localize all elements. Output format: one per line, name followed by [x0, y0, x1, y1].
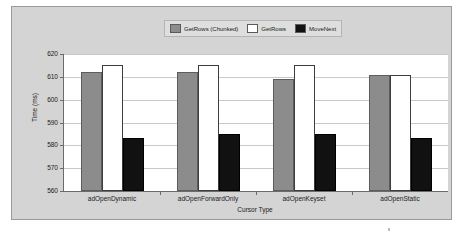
x-axis-tick: [256, 191, 257, 195]
bar-1-1: [198, 65, 219, 191]
legend-swatch-icon-movenext: [295, 24, 306, 33]
bar-2-2: [315, 134, 336, 191]
bar-1-2: [294, 65, 315, 191]
y-axis-tick-label: 620: [47, 51, 58, 58]
legend-entry-movenext: MoveNext: [295, 24, 336, 33]
bar-2-3: [411, 138, 432, 191]
y-axis-tick: [60, 191, 64, 192]
x-axis-tick-label: adOpenStatic: [380, 196, 419, 203]
bar-2-0: [123, 138, 144, 191]
legend-entry-getrows: GetRows: [247, 24, 286, 33]
y-axis-tick-label: 610: [47, 74, 58, 81]
x-axis-tick-label: adOpenForwardOnly: [178, 196, 238, 203]
bar-group: [256, 54, 352, 191]
bar-0-0: [81, 72, 102, 191]
x-axis-tick-label: adOpenKeyset: [282, 196, 325, 203]
bar-group: [160, 54, 256, 191]
y-axis-tick-label: 560: [47, 188, 58, 195]
bar-0-3: [369, 75, 390, 191]
chart-frame: GetRows (Chunked) GetRows MoveNext Time …: [11, 6, 452, 220]
scan-artifact: [388, 228, 390, 231]
bar-2-1: [219, 134, 240, 191]
bar-1-3: [390, 75, 411, 191]
y-axis-tick-label: 580: [47, 142, 58, 149]
legend-label-getrows: GetRows: [261, 26, 286, 32]
legend-entry-getrows-chunked: GetRows (Chunked): [170, 24, 238, 33]
legend-swatch-icon-getrows-chunked: [170, 24, 181, 33]
y-axis-tick-label: 590: [47, 119, 58, 126]
y-axis-tick-label: 600: [47, 96, 58, 103]
bar-group: [352, 54, 448, 191]
plot-area: 620610600590580570560 adOpenDynamicadOpe…: [63, 54, 448, 192]
x-axis-tick: [352, 191, 353, 195]
y-axis-title: Time (ms): [32, 93, 39, 122]
bar-0-2: [273, 79, 294, 191]
chart-page: GetRows (Chunked) GetRows MoveNext Time …: [0, 0, 467, 239]
bar-group: [64, 54, 160, 191]
legend-label-getrows-chunked: GetRows (Chunked): [184, 26, 238, 32]
bar-0-1: [177, 72, 198, 191]
x-axis-tick-label: adOpenDynamic: [88, 196, 136, 203]
legend-label-movenext: MoveNext: [309, 26, 336, 32]
y-axis-tick-label: 570: [47, 165, 58, 172]
chart-legend: GetRows (Chunked) GetRows MoveNext: [164, 20, 342, 37]
legend-swatch-icon-getrows: [247, 24, 258, 33]
bar-1-0: [102, 65, 123, 191]
x-axis-title: Cursor Type: [63, 207, 447, 214]
x-axis-tick: [160, 191, 161, 195]
